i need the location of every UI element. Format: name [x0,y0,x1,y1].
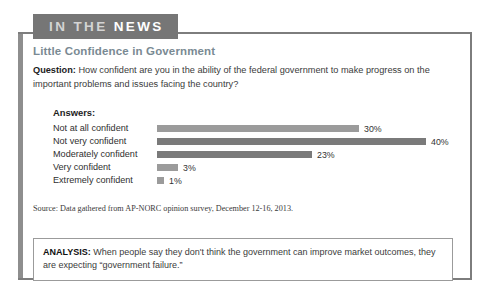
bar-fill [157,151,312,158]
bar-row: Not very confident 40% [53,135,461,148]
bar-value: 3% [183,163,196,173]
bar-fill [157,177,164,184]
bar-track: 30% [157,122,461,135]
bar-track: 3% [157,161,461,174]
bar-value: 23% [317,150,335,160]
frame-left-rule [18,32,23,280]
bar-label: Extremely confident [53,174,157,187]
answers-label: Answers: [53,107,461,118]
bar-row: Moderately confident 23% [53,148,461,161]
bar-label: Not at all confident [53,122,157,135]
bar-track: 1% [157,174,461,187]
analysis-prefix: ANALYSIS: [43,247,91,257]
source-note: Source: Data gathered from AP-NORC opini… [33,204,461,213]
bar-fill [157,125,359,132]
bar-track: 23% [157,148,461,161]
in-the-news-banner: IN THE NEWS [33,14,178,39]
analysis-paragraph: ANALYSIS: When people say they don't thi… [43,246,443,272]
page-title: Little Confidence in Government [33,45,461,57]
bar-value: 40% [431,137,449,147]
bar-fill [157,138,426,145]
analysis-callout: ANALYSIS: When people say they don't thi… [33,238,453,281]
bar-value: 30% [364,124,382,134]
banner-text-light: IN THE [49,20,108,34]
bar-fill [157,164,178,171]
bar-label: Moderately confident [53,148,157,161]
figure-content: Little Confidence in Government Question… [33,45,461,213]
bar-row: Very confident 3% [53,161,461,174]
answers-bar-chart: Not at all confident 30% Not very confid… [53,122,461,187]
question-body: How confident are you in the ability of … [33,65,430,89]
bar-value: 1% [169,176,182,186]
bar-label: Not very confident [53,135,157,148]
frame-right-rule [470,32,472,280]
bar-row: Not at all confident 30% [53,122,461,135]
analysis-body: When people say they don't think the gov… [43,247,436,270]
bar-label: Very confident [53,161,157,174]
bar-track: 40% [157,135,461,148]
banner-text-strong: NEWS [114,20,164,34]
question-prefix: Question: [33,65,76,75]
bar-row: Extremely confident 1% [53,174,461,187]
question-paragraph: Question: How confident are you in the a… [33,64,447,91]
in-the-news-figure: IN THE NEWS Little Confidence in Governm… [0,0,493,298]
